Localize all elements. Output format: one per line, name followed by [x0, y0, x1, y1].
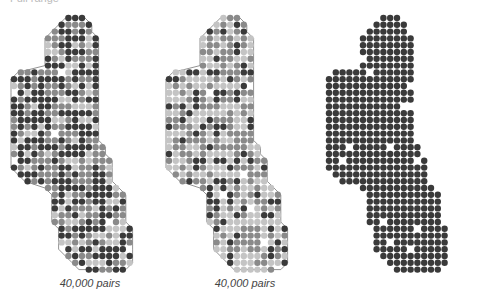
dot-grid-map	[325, 14, 485, 276]
map-caption-2: 40,000 pairs	[165, 277, 325, 289]
region-outline	[11, 18, 133, 270]
range-map-3	[325, 14, 485, 274]
range-map-2	[165, 14, 325, 274]
dot-grid-map	[10, 14, 170, 276]
dot-grid-map	[165, 14, 325, 276]
region-outline	[166, 18, 288, 270]
cut-off-title: Full range	[10, 0, 59, 4]
map-caption-1: 40,000 pairs	[10, 277, 170, 289]
range-map-1	[10, 14, 170, 274]
